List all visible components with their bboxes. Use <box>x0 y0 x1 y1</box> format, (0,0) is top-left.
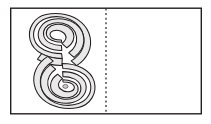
symmetry-diagram-svg <box>0 0 211 124</box>
lower-spiral-core-dot <box>63 84 68 88</box>
figure-canvas <box>0 0 211 124</box>
